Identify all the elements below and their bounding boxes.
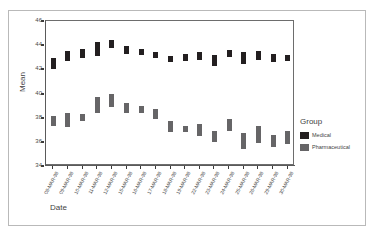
y-axis-line	[45, 20, 46, 165]
legend-swatch-icon	[300, 144, 309, 151]
data-bar	[285, 131, 290, 144]
data-bar	[197, 124, 202, 136]
data-bar	[271, 54, 276, 62]
x-axis-title: Date	[50, 203, 67, 212]
x-tick-mark	[228, 166, 229, 169]
x-tick-mark	[82, 166, 83, 169]
x-tick-mark	[140, 166, 141, 169]
data-bar	[153, 52, 158, 58]
data-bar	[65, 113, 70, 128]
data-bar	[183, 126, 188, 132]
data-bar	[80, 49, 85, 59]
legend-item-label: Medical	[312, 133, 331, 139]
x-tick-mark	[199, 166, 200, 169]
data-bar	[80, 114, 85, 121]
x-tick-mark	[184, 166, 185, 169]
legend-item-label: Pharmaceutical	[312, 145, 350, 151]
x-tick-mark	[213, 166, 214, 169]
x-tick-mark	[257, 166, 258, 169]
data-bar	[256, 51, 261, 59]
data-bar	[241, 52, 246, 64]
data-bar	[227, 50, 232, 57]
x-tick-mark	[287, 166, 288, 169]
data-bar	[109, 94, 114, 107]
chart-figure: 34363840424446 08-MAR-9809-MAR-9810-MAR-…	[0, 0, 376, 236]
data-bar	[168, 56, 173, 62]
data-bar	[212, 55, 217, 66]
data-bar	[51, 116, 56, 126]
data-bar	[124, 46, 129, 53]
y-tick-label: 38	[35, 114, 42, 120]
data-bar	[227, 119, 232, 131]
data-bar	[212, 131, 217, 142]
legend: Group MedicalPharmaceutical	[300, 117, 370, 156]
data-bar	[95, 42, 100, 57]
y-axis-title: Mean	[18, 72, 27, 92]
data-bar	[109, 40, 114, 47]
data-bar	[285, 55, 290, 61]
data-bar	[139, 49, 144, 55]
x-tick-mark	[52, 166, 53, 169]
data-bar	[241, 133, 246, 149]
data-bar	[124, 103, 129, 113]
x-tick-mark	[243, 166, 244, 169]
legend-entries: MedicalPharmaceutical	[300, 132, 370, 151]
x-tick-mark	[111, 166, 112, 169]
y-tick-label: 34	[35, 162, 42, 168]
data-bar	[51, 58, 56, 69]
legend-item[interactable]: Medical	[300, 132, 370, 139]
data-bar	[271, 135, 276, 147]
data-bar	[197, 52, 202, 59]
y-tick-label: 36	[35, 138, 42, 144]
x-tick-mark	[170, 166, 171, 169]
data-bar	[153, 109, 158, 119]
legend-title: Group	[300, 117, 370, 126]
data-bar	[65, 51, 70, 61]
data-bar	[183, 54, 188, 61]
data-bar	[139, 106, 144, 113]
x-tick-mark	[96, 166, 97, 169]
y-tick-label: 40	[35, 90, 42, 96]
x-tick-mark	[126, 166, 127, 169]
y-tick-label: 42	[35, 65, 42, 71]
y-tick-label: 46	[35, 17, 42, 23]
legend-swatch-icon	[300, 132, 309, 139]
data-bar	[168, 121, 173, 132]
x-tick-mark	[155, 166, 156, 169]
plot-panel	[45, 20, 294, 165]
x-tick-mark	[67, 166, 68, 169]
legend-item[interactable]: Pharmaceutical	[300, 144, 370, 151]
data-bar	[256, 126, 261, 143]
data-bar	[95, 97, 100, 113]
x-tick-mark	[272, 166, 273, 169]
y-tick-label: 44	[35, 41, 42, 47]
plot-area	[46, 21, 293, 164]
